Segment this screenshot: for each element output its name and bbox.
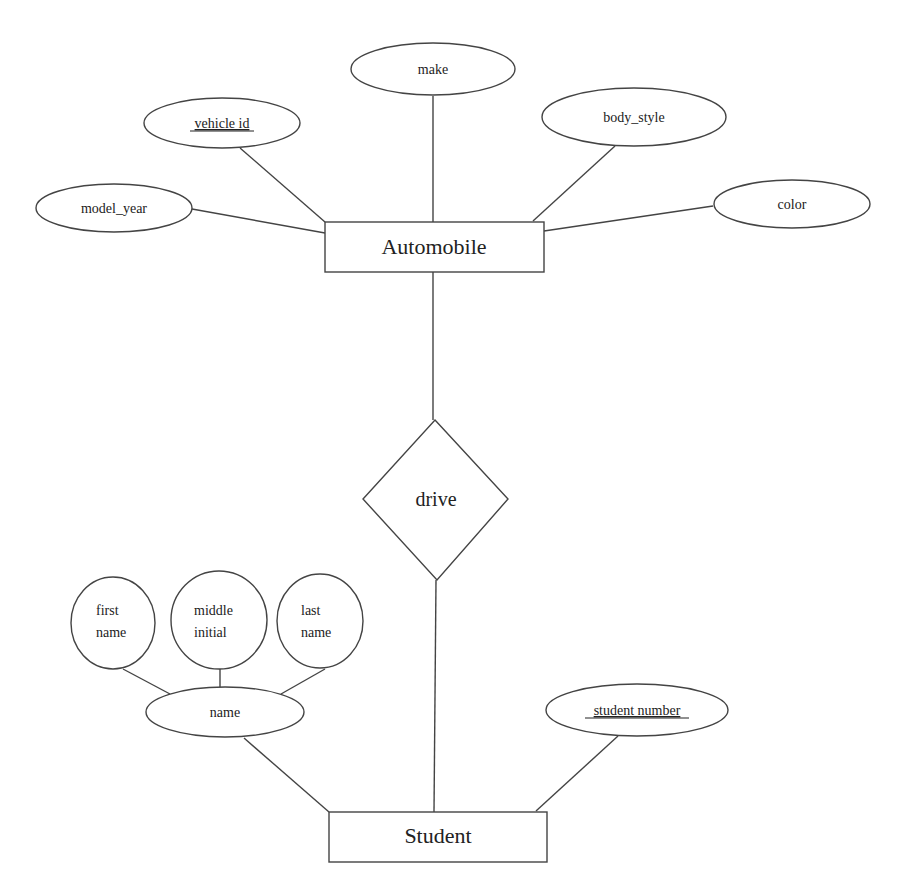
er-diagram: make vehicle id body_style model_year co… xyxy=(0,0,909,896)
attribute-color-label: color xyxy=(778,197,807,212)
attribute-student-number[interactable]: student number xyxy=(546,684,728,736)
attribute-middle-initial-line2: initial xyxy=(194,625,227,640)
attribute-body-style-label: body_style xyxy=(603,110,664,125)
edge-student-number-student xyxy=(536,736,618,811)
attribute-vehicle-id-label: vehicle id xyxy=(195,116,250,131)
attribute-model-year[interactable]: model_year xyxy=(36,184,192,232)
attribute-name[interactable]: name xyxy=(146,687,304,737)
entity-automobile-label: Automobile xyxy=(381,234,486,259)
attribute-last-name[interactable]: last name xyxy=(277,574,363,668)
attribute-body-style[interactable]: body_style xyxy=(542,88,726,146)
attribute-middle-initial[interactable]: middle initial xyxy=(171,571,267,669)
attribute-first-name[interactable]: first name xyxy=(71,577,155,669)
edge-first-name-name xyxy=(123,669,170,694)
edge-drive-student xyxy=(434,580,436,812)
attribute-vehicle-id[interactable]: vehicle id xyxy=(144,98,300,148)
relationship-drive-label: drive xyxy=(415,488,456,510)
edge-color-automobile xyxy=(544,206,713,231)
attribute-first-name-line1: first xyxy=(96,603,119,618)
attribute-model-year-label: model_year xyxy=(81,201,147,216)
attribute-first-name-line2: name xyxy=(96,625,126,640)
attribute-name-label: name xyxy=(210,705,240,720)
relationship-drive[interactable]: drive xyxy=(363,420,508,580)
edge-body-style-automobile xyxy=(533,146,615,221)
attribute-student-number-label: student number xyxy=(594,703,681,718)
attribute-last-name-line1: last xyxy=(301,603,321,618)
edge-vehicle-id-automobile xyxy=(240,148,325,222)
edge-name-student xyxy=(244,738,329,812)
attribute-color[interactable]: color xyxy=(714,180,870,228)
attribute-make[interactable]: make xyxy=(351,43,515,95)
edge-last-name-name xyxy=(281,669,325,694)
entity-automobile[interactable]: Automobile xyxy=(325,222,544,272)
edge-model-year-automobile xyxy=(192,209,325,233)
entity-student-label: Student xyxy=(404,823,471,848)
entity-student[interactable]: Student xyxy=(329,812,547,862)
attribute-make-label: make xyxy=(418,62,448,77)
attribute-last-name-line2: name xyxy=(301,625,331,640)
attribute-middle-initial-line1: middle xyxy=(194,603,233,618)
